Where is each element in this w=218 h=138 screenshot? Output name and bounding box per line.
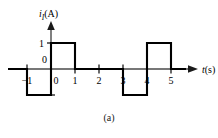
x-label-2: 2 xyxy=(97,75,102,86)
figure-caption: (a) xyxy=(0,112,218,123)
x-label-1: 1 xyxy=(73,75,78,86)
y-axis-arrow-icon xyxy=(47,21,55,30)
y-label-0: 0 xyxy=(42,54,47,65)
x-axis-title-unit: (s) xyxy=(205,64,216,76)
x-axis-title: t(s) xyxy=(202,64,215,76)
x-axis-arrow-icon xyxy=(188,65,198,73)
x-label-5: 5 xyxy=(169,75,174,86)
y-axis-title: iI(A) xyxy=(39,8,58,22)
x-label-0: 0 xyxy=(54,75,59,86)
y-label-1: 1 xyxy=(39,38,44,49)
x-label-neg1: −1 xyxy=(22,75,33,86)
y-axis-title-unit: (A) xyxy=(44,8,58,20)
x-label-4: 4 xyxy=(145,75,150,86)
x-label-3: 3 xyxy=(121,75,126,86)
x-tick-labels: −1 0 1 2 3 4 5 xyxy=(22,75,174,86)
y-tick-labels: 1 0 xyxy=(39,38,47,65)
